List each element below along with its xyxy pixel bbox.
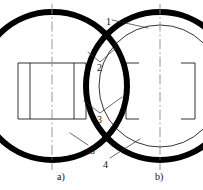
callout-label-1: 1 [106,17,111,27]
drawing-canvas [0,0,203,190]
callout-label-5: 5 [90,146,95,156]
callout-label-3: 3 [97,115,102,125]
caption-a: a) [57,172,65,182]
technical-drawing-figure: 1 2 3 4 5 a) b) [0,0,203,190]
callout-label-4: 4 [103,160,108,170]
caption-b: b) [155,172,163,182]
callout-label-2: 2 [97,63,102,73]
